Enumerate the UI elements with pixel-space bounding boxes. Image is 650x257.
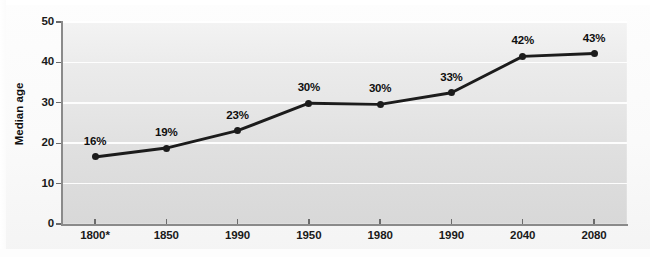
x-tick-label: 2040	[483, 229, 563, 241]
x-tick-label: 1850	[126, 229, 206, 241]
x-tick-mark	[522, 219, 523, 224]
x-tick-label: 1800*	[55, 229, 135, 241]
x-tick-mark	[94, 219, 95, 224]
plot-area	[62, 22, 627, 224]
y-tick-label: 40	[22, 55, 54, 67]
data-point-marker	[591, 50, 598, 57]
y-tick-mark	[56, 62, 61, 63]
gridline	[62, 102, 627, 104]
y-tick-mark	[56, 102, 61, 103]
gridline	[62, 21, 627, 23]
data-point-label: 30%	[350, 82, 410, 94]
gridline	[62, 183, 627, 185]
data-point-label: 30%	[279, 81, 339, 93]
y-tick-mark	[56, 143, 61, 144]
x-axis-line	[61, 224, 628, 226]
x-tick-label: 2080	[554, 229, 634, 241]
data-point-label: 43%	[564, 32, 624, 44]
x-tick-mark	[593, 219, 594, 224]
x-tick-mark	[237, 219, 238, 224]
chart-figure: Median age 01020304050 1800*185019901950…	[0, 0, 650, 257]
y-tick-label: 10	[22, 177, 54, 189]
data-point-label: 16%	[65, 135, 125, 147]
y-tick-label: 20	[22, 136, 54, 148]
y-tick-label: 0	[22, 217, 54, 229]
figure-bottom-edge	[0, 249, 650, 257]
gridline	[62, 62, 627, 64]
data-point-marker	[519, 53, 526, 60]
y-tick-label: 30	[22, 96, 54, 108]
gridline	[62, 142, 627, 144]
x-tick-mark	[308, 219, 309, 224]
x-tick-label: 1980	[340, 229, 420, 241]
y-tick-labels-group: 01020304050	[16, 0, 54, 257]
x-tick-mark	[166, 219, 167, 224]
figure-top-edge	[0, 0, 650, 5]
x-tick-label: 1950	[269, 229, 349, 241]
y-axis-line	[61, 21, 63, 225]
data-point-marker	[163, 145, 170, 152]
y-tick-mark	[56, 183, 61, 184]
y-tick-mark	[56, 21, 61, 22]
data-point-marker	[377, 101, 384, 108]
data-point-label: 42%	[493, 34, 553, 46]
data-point-marker	[92, 153, 99, 160]
figure-left-edge	[0, 0, 6, 257]
data-point-label: 33%	[421, 71, 481, 83]
x-tick-label: 1990	[411, 229, 491, 241]
data-point-label: 23%	[208, 109, 268, 121]
data-point-label: 19%	[136, 126, 196, 138]
x-tick-mark	[451, 219, 452, 224]
y-tick-mark	[56, 223, 61, 224]
x-tick-label: 1990	[198, 229, 278, 241]
x-tick-mark	[379, 219, 380, 224]
y-tick-label: 50	[22, 15, 54, 27]
